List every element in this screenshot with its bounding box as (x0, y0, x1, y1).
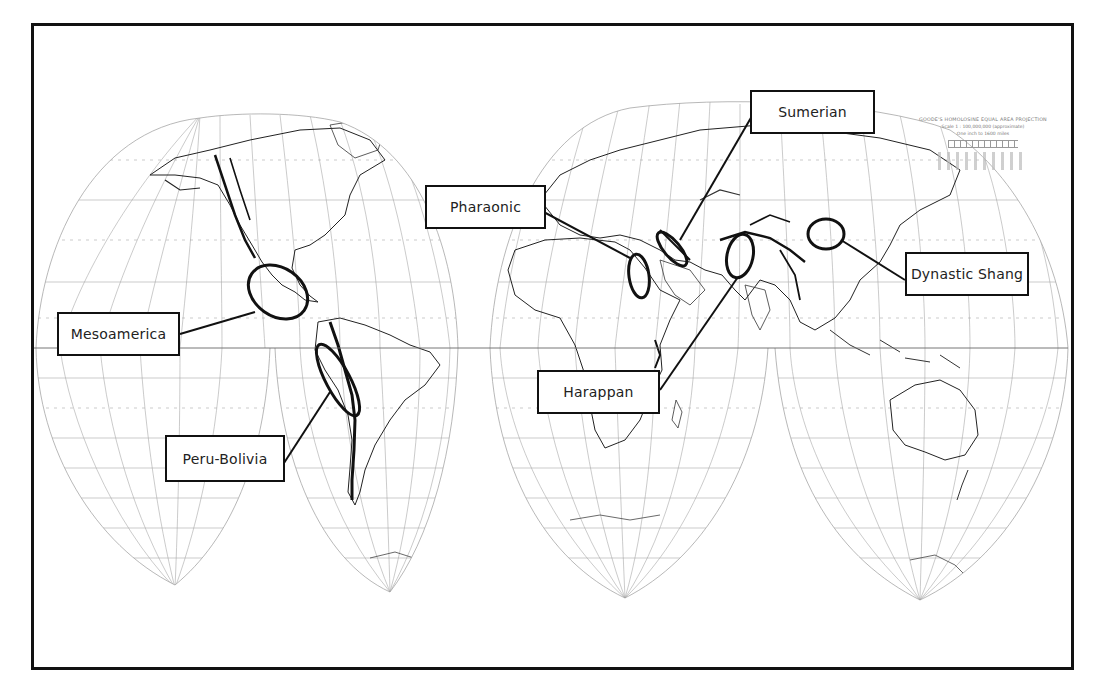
sumerian-leader-line (680, 116, 752, 240)
label-pharaonic: Pharaonic (425, 185, 546, 229)
harappan-region-ellipse (723, 232, 758, 280)
south-america-outline (315, 318, 440, 505)
label-sumerian: Sumerian (750, 90, 875, 134)
label-harappan: Harappan (537, 370, 660, 414)
projection-legend: GOODE'S HOMOLOSINE EQUAL AREA PROJECTION… (918, 116, 1048, 170)
legend-rows (918, 152, 1048, 170)
label-dynastic-shang: Dynastic Shang (905, 252, 1029, 296)
projection-title: GOODE'S HOMOLOSINE EQUAL AREA PROJECTION (918, 116, 1048, 123)
eurasia-outline (540, 125, 960, 330)
scale-bar (948, 140, 1018, 148)
dynastic-shang-leader-line (841, 240, 905, 280)
peru-bolivia-leader-line (284, 392, 330, 463)
pharaonic-leader-line (540, 210, 630, 258)
mesoamerica-region-ellipse (238, 254, 318, 330)
africa-outline (508, 238, 680, 448)
peru-bolivia-region-ellipse (309, 339, 368, 421)
pharaonic-region-ellipse (626, 253, 652, 299)
projection-inch: One inch to 1600 miles (918, 130, 1048, 137)
dynastic-shang-region-ellipse (808, 219, 844, 249)
label-mesoamerica: Mesoamerica (57, 312, 180, 356)
mesoamerica-leader-line (180, 312, 255, 334)
projection-scale: Scale 1 : 100,000,000 (approximate) (918, 123, 1048, 130)
label-peru-bolivia: Peru-Bolivia (165, 435, 285, 482)
